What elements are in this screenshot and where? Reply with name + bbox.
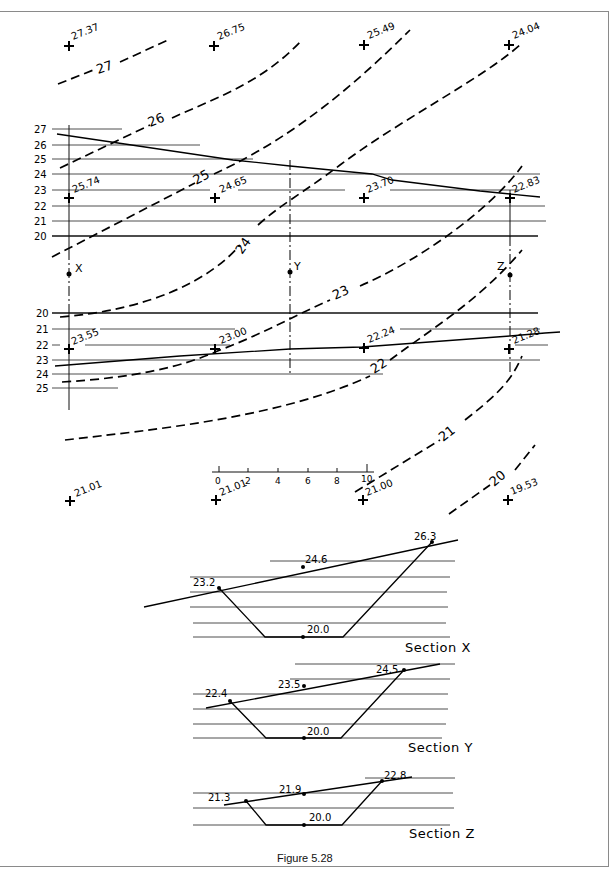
scale-tick-label: 10 bbox=[361, 474, 373, 484]
spot-height-marker bbox=[209, 41, 219, 51]
section-y: 22.4 23.5 24.5 20.0 Section Y bbox=[193, 664, 473, 755]
spot-height-label: 25.49 bbox=[366, 20, 397, 41]
spot-height-label: 23.00 bbox=[218, 325, 249, 346]
contour-27 bbox=[58, 40, 168, 84]
section-y-point bbox=[288, 270, 293, 275]
lower-profile-line bbox=[55, 332, 560, 366]
spot-height-marker bbox=[211, 495, 221, 505]
spot-height-label: 25.74 bbox=[71, 174, 102, 195]
section-x-bottom-level: 20.0 bbox=[307, 624, 329, 635]
upper-profile-line bbox=[57, 134, 540, 197]
spot-height-label: 22.83 bbox=[511, 174, 542, 195]
contour-label-22: 22 bbox=[368, 355, 390, 376]
contour-label-24: 24 bbox=[232, 235, 254, 257]
section-x-label: X bbox=[75, 262, 83, 275]
section-z-right-level: 22.8 bbox=[384, 770, 406, 781]
section-z-point bbox=[508, 273, 513, 278]
spot-height-marker bbox=[504, 344, 514, 354]
level-label: 23 bbox=[36, 355, 49, 366]
level-label: 20 bbox=[36, 308, 49, 319]
lower-level-lines bbox=[52, 313, 548, 388]
spot-height-marker bbox=[210, 344, 220, 354]
section-x-point bbox=[67, 272, 72, 277]
spot-height-label: 26.75 bbox=[216, 21, 247, 42]
section-x-title: Section X bbox=[405, 640, 471, 655]
upper-level-labels: 27 26 25 24 23 22 21 20 bbox=[34, 124, 47, 242]
contour-labels: 27 26 25 24 23 22 21 20 bbox=[94, 57, 508, 489]
spot-heights: 27.37 26.75 25.49 24.04 25.74 24.65 23.7… bbox=[64, 20, 541, 506]
spot-height-label: 21.28 bbox=[511, 325, 542, 346]
section-y-right-level: 24.5 bbox=[376, 664, 398, 675]
section-x: 23.2 24.6 26.3 20.0 Section X bbox=[144, 531, 471, 655]
spot-height-label: 24.04 bbox=[511, 20, 542, 41]
section-z-left-level: 21.3 bbox=[208, 792, 230, 803]
level-label: 21 bbox=[36, 324, 49, 335]
level-label: 26 bbox=[34, 140, 47, 151]
spot-height-marker bbox=[359, 40, 369, 50]
contour-26 bbox=[60, 40, 302, 168]
scale-tick-label: 6 bbox=[305, 476, 311, 486]
level-label: 25 bbox=[36, 383, 49, 394]
spot-height-label: 27.37 bbox=[70, 21, 101, 42]
section-z-title: Section Z bbox=[409, 826, 475, 841]
spot-height-marker bbox=[65, 496, 75, 506]
figure-caption: Figure 5.28 bbox=[277, 852, 333, 864]
level-label: 24 bbox=[36, 369, 49, 380]
section-x-right-level: 26.3 bbox=[414, 531, 436, 542]
spot-height-label: 22.24 bbox=[366, 324, 397, 345]
section-y-mid-level: 23.5 bbox=[278, 679, 300, 690]
spot-height-label: 21.01 bbox=[73, 478, 104, 499]
spot-height-marker bbox=[359, 343, 369, 353]
spot-height-marker bbox=[64, 41, 74, 51]
scale-tick-label: 2 bbox=[245, 476, 251, 486]
scale-tick-label: 8 bbox=[334, 476, 340, 486]
section-lines bbox=[69, 125, 510, 410]
contour-plan-diagram: 27 26 25 24 23 22 21 20 20 21 22 23 24 2… bbox=[0, 0, 612, 869]
scale-tick-label: 0 bbox=[215, 476, 221, 486]
spot-height-marker bbox=[503, 495, 513, 505]
spot-height-marker bbox=[210, 193, 220, 203]
level-label: 27 bbox=[34, 124, 47, 135]
section-z-mid-level: 21.9 bbox=[279, 784, 301, 795]
level-label: 22 bbox=[34, 201, 47, 212]
section-y-left-level: 22.4 bbox=[205, 688, 227, 699]
contour-label-27: 27 bbox=[94, 57, 114, 76]
section-y-bottom-level: 20.0 bbox=[307, 726, 329, 737]
level-label: 22 bbox=[36, 340, 49, 351]
section-y-title: Section Y bbox=[408, 740, 473, 755]
section-z-bottom-level: 20.0 bbox=[309, 812, 331, 823]
scale-tick-label: 4 bbox=[275, 476, 281, 486]
level-label: 25 bbox=[34, 154, 47, 165]
upper-level-lines bbox=[52, 129, 546, 236]
spot-height-marker bbox=[64, 193, 74, 203]
section-z: 21.3 21.9 22.8 20.0 Section Z bbox=[193, 770, 475, 841]
level-label: 21 bbox=[34, 216, 47, 227]
section-x-mid-level: 24.6 bbox=[305, 554, 327, 565]
spot-height-marker bbox=[504, 40, 514, 50]
spot-height-marker bbox=[359, 193, 369, 203]
spot-height-label: 24.65 bbox=[218, 174, 249, 195]
section-x-left-level: 23.2 bbox=[193, 577, 215, 588]
contour-label-23: 23 bbox=[330, 282, 351, 303]
level-label: 23 bbox=[34, 185, 47, 196]
level-label: 24 bbox=[34, 169, 47, 180]
level-label: 20 bbox=[34, 231, 47, 242]
spot-height-label: 19.53 bbox=[509, 476, 540, 497]
spot-height-label: 21.01 bbox=[218, 477, 249, 498]
contour-label-26: 26 bbox=[146, 110, 167, 130]
section-y-label: Y bbox=[293, 260, 301, 273]
lower-level-labels: 20 21 22 23 24 25 bbox=[36, 308, 49, 394]
